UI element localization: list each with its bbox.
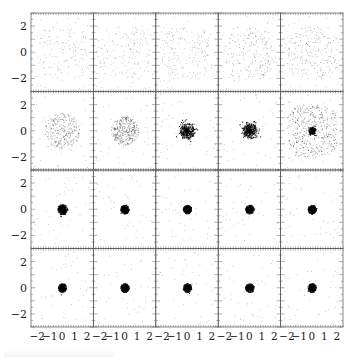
x-tick-label: 1 [71, 330, 78, 342]
scatter-panel [96, 18, 153, 89]
y-tick-label: 0 [20, 46, 27, 59]
y-tick-label: 0 [20, 282, 27, 295]
scatter-panel [34, 94, 91, 168]
y-tick-label: 2 [20, 256, 27, 269]
y-tick-label: −2 [11, 72, 27, 85]
y-tick-label: 0 [20, 125, 27, 138]
y-tick-label: 0 [20, 203, 27, 216]
core-cluster [60, 285, 65, 290]
core-cluster [247, 128, 252, 133]
x-tick-label: 2 [271, 330, 278, 342]
x-tick-label: 2 [209, 330, 216, 342]
core-cluster [309, 128, 314, 133]
scatter-panel-grid: −202−202−202−202−2−1012−2−1012−2−1012−2−… [0, 0, 357, 360]
x-tick-label: 2 [84, 330, 91, 342]
x-tick-label: 0 [246, 330, 253, 342]
x-tick-label: 0 [184, 330, 191, 342]
scatter-panel [285, 16, 340, 87]
y-tick-label: −2 [11, 151, 27, 164]
core-cluster [122, 285, 127, 290]
panel-frame [93, 13, 155, 92]
core-cluster [247, 285, 252, 290]
core-cluster [185, 207, 190, 212]
x-tick-label: 1 [134, 330, 141, 342]
x-tick-label: 2 [333, 330, 340, 342]
x-tick-label: −1 [292, 330, 307, 342]
x-tick-label: −1 [42, 330, 57, 342]
x-tick-label: 1 [321, 330, 328, 342]
x-tick-label: 1 [196, 330, 203, 342]
y-tick-label: −2 [11, 308, 27, 321]
scatter-panel [160, 17, 214, 88]
core-cluster [309, 207, 314, 212]
x-tick-label: −1 [229, 330, 244, 342]
panel-frame [281, 13, 343, 92]
x-tick-label: 0 [59, 330, 66, 342]
scatter-panel [34, 18, 92, 89]
scatter-panel [222, 16, 278, 89]
panel-frame [93, 92, 155, 171]
panel-frame [218, 13, 280, 92]
x-tick-label: −1 [167, 330, 182, 342]
y-tick-label: 2 [20, 99, 27, 112]
core-cluster [60, 207, 65, 212]
y-tick-label: 2 [20, 177, 27, 190]
x-tick-label: −1 [104, 330, 119, 342]
scatter-panel [96, 95, 151, 168]
x-tick-label: 0 [308, 330, 315, 342]
x-tick-label: 2 [146, 330, 153, 342]
panel-frame [31, 13, 93, 92]
x-tick-label: 0 [121, 330, 128, 342]
figure-caption-cropped [4, 349, 114, 357]
core-cluster [122, 207, 127, 212]
core-cluster [247, 207, 252, 212]
x-tick-label: 1 [259, 330, 266, 342]
core-cluster [185, 128, 190, 133]
core-cluster [309, 285, 314, 290]
core-cluster [185, 285, 190, 290]
panel-frame [156, 13, 218, 92]
y-tick-label: 2 [20, 20, 27, 33]
y-tick-label: −2 [11, 229, 27, 242]
